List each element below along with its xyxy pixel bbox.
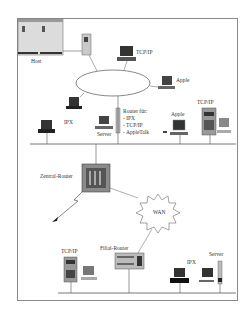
tower-pc-icon (64, 257, 97, 282)
tower-server-icon (202, 108, 231, 135)
server-icon (95, 116, 113, 129)
central-router-icon (82, 164, 110, 192)
tcpip-bottom-label: TCP/IP (61, 248, 78, 254)
router-appletalk-label: - AppleTalk (123, 129, 149, 135)
pc-icon (66, 97, 82, 109)
server-bottom-icon (199, 268, 214, 282)
controller-tower-icon (82, 34, 91, 55)
token-ring-network (76, 70, 150, 96)
server-bottom-label: Server (209, 251, 224, 257)
wireless-link-icon (54, 192, 82, 221)
tcpip-right-label: TCP/IP (197, 99, 214, 105)
router-tcpip-label: - TCP/IP (123, 122, 143, 128)
ipx-pc-icon (38, 120, 55, 133)
router-title-label: Router für: (123, 108, 148, 114)
central-router-label: Zentral-Router (40, 173, 73, 179)
apple-lan-label: Apple (171, 111, 185, 117)
wan-label: WAN (153, 209, 166, 215)
workstation-icon (117, 46, 136, 61)
router-ipx-label: - IPX (123, 115, 135, 121)
apple-mac-icon (163, 120, 188, 135)
arrow-icon (52, 217, 58, 222)
ipx-bottom-label: IPX (187, 259, 196, 265)
server-mid-label: Server (97, 131, 112, 137)
apple-ring-label: Apple (176, 77, 190, 83)
ipx-pc-bottom-icon (170, 268, 189, 283)
ipx-left-label: IPX (64, 119, 73, 125)
network-diagram: Host TCP/IP Apple IPX Server (0, 0, 249, 319)
tcpip-top-label: TCP/IP (136, 49, 153, 55)
host-mainframe-icon (18, 19, 63, 55)
apple-computer-icon (158, 76, 175, 89)
host-label: Host (31, 58, 42, 64)
branch-router-label: Filial-Router (100, 245, 129, 251)
branch-router-icon (115, 253, 144, 269)
server-tower-bottom-icon (218, 261, 222, 284)
